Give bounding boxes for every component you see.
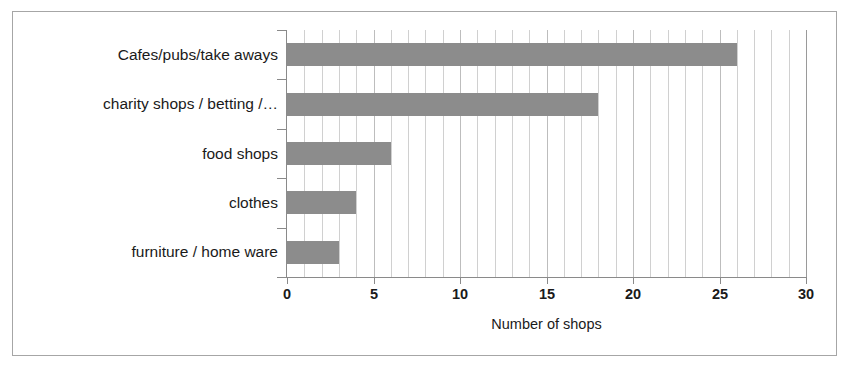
category-label: food shops: [6, 145, 278, 163]
gridline: [425, 30, 426, 277]
y-axis-tick: [277, 178, 286, 179]
gridline: [737, 30, 738, 277]
bar-chart-figure: Cafes/pubs/take awayscharity shops / bet…: [0, 0, 849, 369]
x-axis-tick: [460, 278, 461, 284]
x-axis-tick-label: 20: [613, 286, 653, 302]
gridline: [529, 30, 530, 277]
gridline: [460, 30, 461, 277]
bar: [287, 142, 391, 165]
plot-area: [287, 30, 806, 277]
y-axis-tick: [277, 79, 286, 80]
x-axis-tick: [547, 278, 548, 284]
gridline: [616, 30, 617, 277]
gridline: [754, 30, 755, 277]
gridline: [581, 30, 582, 277]
gridline: [685, 30, 686, 277]
gridline: [702, 30, 703, 277]
category-label: Cafes/pubs/take aways: [6, 46, 278, 64]
category-axis-labels: Cafes/pubs/take awayscharity shops / bet…: [0, 0, 278, 369]
y-axis-tick: [277, 277, 286, 278]
gridline: [598, 30, 599, 277]
category-label: charity shops / betting /…: [6, 95, 278, 113]
bar: [287, 43, 737, 66]
x-axis-tick-label: 5: [354, 286, 394, 302]
y-axis-line: [286, 30, 287, 278]
x-axis-tick-label: 0: [267, 286, 307, 302]
gridline: [771, 30, 772, 277]
x-axis-tick-label: 10: [440, 286, 480, 302]
x-axis-tick-label: 25: [700, 286, 740, 302]
gridline: [806, 30, 807, 277]
x-axis-tick: [287, 278, 288, 284]
gridline: [443, 30, 444, 277]
x-axis-tick-label: 15: [527, 286, 567, 302]
gridline: [512, 30, 513, 277]
x-axis-tick: [806, 278, 807, 284]
bar: [287, 191, 356, 214]
x-axis-tick-label: 30: [786, 286, 826, 302]
y-axis-tick: [277, 129, 286, 130]
x-axis-tick: [633, 278, 634, 284]
x-axis-tick: [374, 278, 375, 284]
gridline: [720, 30, 721, 277]
gridline: [477, 30, 478, 277]
category-label: clothes: [6, 194, 278, 212]
bar: [287, 241, 339, 264]
gridline: [408, 30, 409, 277]
gridline: [633, 30, 634, 277]
gridline: [650, 30, 651, 277]
category-label: furniture / home ware: [6, 243, 278, 261]
x-axis-tick: [720, 278, 721, 284]
gridline: [495, 30, 496, 277]
gridline: [391, 30, 392, 277]
y-axis-tick: [277, 228, 286, 229]
gridline: [547, 30, 548, 277]
gridline: [668, 30, 669, 277]
y-axis-tick: [277, 30, 286, 31]
gridline: [789, 30, 790, 277]
bar: [287, 93, 598, 116]
gridline: [564, 30, 565, 277]
x-axis-title: Number of shops: [287, 316, 806, 332]
